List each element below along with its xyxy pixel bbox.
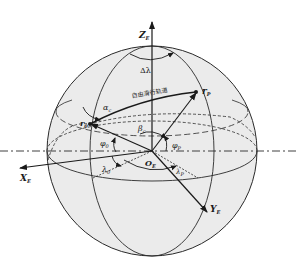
delta-lambda-label: Δλ (140, 66, 151, 75)
point-r0 (88, 122, 92, 126)
sphere-diagram: ZE XE YE OE r0 rP Δλ αc βc φ0 φP λ0 λP 自… (0, 0, 298, 261)
x-axis-label: XE (19, 173, 31, 184)
point-rp (194, 90, 198, 94)
z-axis-label: ZE (138, 30, 150, 41)
